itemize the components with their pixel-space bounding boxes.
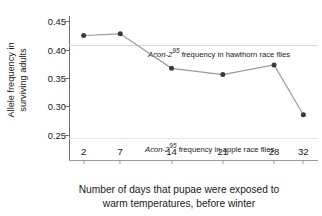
y-axis-tick-label: 0.35 [36,72,66,83]
y-axis-tick-label: 0.40 [36,44,66,55]
data-series-svg [69,14,318,160]
y-axis-tick-label: 0.45 [36,16,66,27]
x-axis-tick-label: 14 [166,146,177,157]
x-axis-tick-mark [222,160,223,164]
y-axis-title-line-1: Allele frequency in [6,42,18,117]
data-point [272,62,277,67]
data-line [84,34,304,115]
x-axis-tick-label: 32 [298,146,309,157]
x-axis-tick-label: 21 [217,146,228,157]
x-axis-title-line-2: warm temperatures, before winter [40,197,318,211]
x-axis-tick-mark [120,160,121,164]
data-point [118,31,123,36]
y-axis-tick-label: 0.30 [36,101,66,112]
data-point [169,66,174,71]
x-axis-tick-labels: 2714212832 [0,146,322,160]
x-axis-tick-mark [274,160,275,164]
y-axis-title-line-2: surviving adults [17,42,29,117]
x-axis-tick-label: 28 [269,146,280,157]
y-axis-title: Allele frequency in surviving adults [0,0,34,160]
data-point [220,72,225,77]
plot-area [69,14,318,160]
x-axis-title-line-1: Number of days that pupae were exposed t… [40,183,318,197]
x-axis-tick-mark [303,160,304,164]
x-axis-tick-label: 2 [81,146,86,157]
data-markers-group [81,31,306,117]
data-point [81,33,86,38]
y-axis-tick-label: 0.25 [36,129,66,140]
x-axis-tick-mark [171,160,172,164]
data-point [301,112,306,117]
x-axis-tick-label: 7 [118,146,123,157]
x-axis-tick-mark [83,160,84,164]
allele-frequency-line-chart: Allele frequency in surviving adults 0.4… [0,0,322,216]
x-axis-title: Number of days that pupae were exposed t… [40,183,318,210]
